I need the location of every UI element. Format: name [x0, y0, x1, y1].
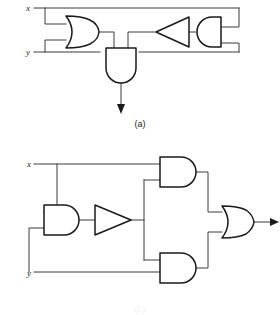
- circuit-a-and-gate-1: [197, 17, 221, 47]
- circuit-a-or-gate-1: [66, 16, 99, 48]
- circuit-b-output-arrow: [270, 218, 279, 226]
- circuit-b-caption: (b): [135, 304, 146, 314]
- circuit-b-or-gate-out: [222, 206, 254, 238]
- circuit-b-and-gate-top: [160, 157, 196, 187]
- circuit-a: x y: [25, 3, 239, 129]
- circuit-b-input-label-x: x: [26, 159, 31, 169]
- circuit-b: x y: [26, 157, 279, 314]
- circuit-a-output-arrow: [117, 104, 125, 114]
- circuit-a-not-gate-1: [156, 17, 189, 47]
- circuit-a-input-label-y: y: [25, 47, 30, 57]
- circuit-a-caption: (a): [135, 119, 146, 129]
- figure-root: x y: [0, 0, 280, 315]
- circuit-a-and-gate-2: [106, 48, 136, 83]
- circuit-b-and-gate-bottom: [160, 253, 196, 283]
- circuit-b-not-gate: [95, 205, 131, 235]
- circuit-b-and-gate-left: [44, 205, 79, 235]
- circuit-a-input-label-x: x: [25, 3, 30, 13]
- logic-circuit-figure: x y: [0, 0, 280, 315]
